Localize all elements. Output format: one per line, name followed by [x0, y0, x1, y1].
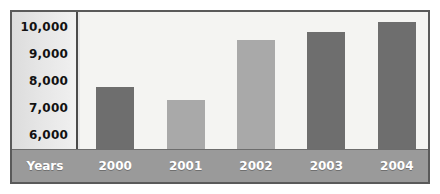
y-tick-label-7000: 7,000 — [12, 102, 68, 115]
bar-2002 — [237, 12, 275, 150]
y-tick-label-6000: 6,000 — [12, 129, 68, 142]
x-axis-title: Years — [12, 150, 78, 182]
y-tick-label-9000: 9,000 — [12, 48, 68, 61]
y-axis-labels: 10,000 9,000 8,000 7,000 6,000 — [12, 12, 78, 150]
bar-chart: 10,000 9,000 8,000 7,000 6,000 Years 200… — [10, 10, 430, 184]
bar-2004 — [378, 12, 416, 150]
bar-rect-2002 — [237, 40, 275, 150]
plot-area — [80, 12, 428, 152]
x-tick-label-2001: 2001 — [150, 150, 220, 182]
bar-rect-2004 — [378, 22, 416, 150]
x-tick-label-2000: 2000 — [80, 150, 150, 182]
bar-2003 — [307, 12, 345, 150]
x-axis-band: Years 20002001200220032004 — [12, 149, 428, 182]
bar-2000 — [96, 12, 134, 150]
x-tick-label-2002: 2002 — [221, 150, 291, 182]
x-tick-label-2004: 2004 — [362, 150, 432, 182]
x-tick-label-2003: 2003 — [291, 150, 361, 182]
bars-container — [80, 12, 428, 150]
bar-rect-2003 — [307, 32, 345, 150]
bar-rect-2001 — [167, 100, 205, 150]
y-tick-label-8000: 8,000 — [12, 75, 68, 88]
bar-2001 — [167, 12, 205, 150]
y-tick-label-10000: 10,000 — [12, 21, 68, 34]
bar-rect-2000 — [96, 87, 134, 150]
